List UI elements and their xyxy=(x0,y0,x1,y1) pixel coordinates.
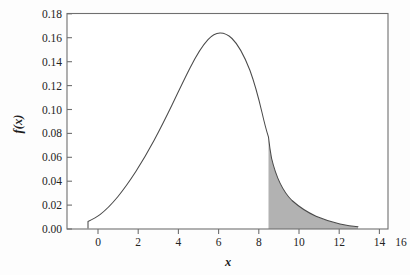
y-tick-label-0.18: 0.18 xyxy=(42,8,62,20)
y-tick-label-0.02: 0.02 xyxy=(42,199,62,211)
y-tick-label-0.06: 0.06 xyxy=(42,151,62,163)
plot-background xyxy=(67,14,388,230)
y-tick-label-0.04: 0.04 xyxy=(42,175,62,187)
x-tick-label-14: 14 xyxy=(374,236,386,248)
y-tick-label-0.14: 0.14 xyxy=(42,56,62,68)
x-tick-label-4: 4 xyxy=(176,236,182,248)
y-tick-label-0.12: 0.12 xyxy=(42,80,62,92)
x-tick-label-12: 12 xyxy=(333,236,345,248)
density-plot-svg: 0.18 0.16 0.14 0.12 0.10 0.08 0.06 0.04 … xyxy=(0,0,410,275)
y-tick-label-0.16: 0.16 xyxy=(42,32,62,44)
y-tick-label-0.10: 0.10 xyxy=(42,104,62,116)
x-tick-label-0: 0 xyxy=(95,236,101,248)
y-tick-label-0.08: 0.08 xyxy=(42,127,62,139)
x-tick-label-16: 16 xyxy=(395,236,407,248)
x-axis-title: x xyxy=(224,255,231,269)
x-tick-label-8: 8 xyxy=(256,236,262,248)
x-tick-label-10: 10 xyxy=(293,236,305,248)
x-tick-marks xyxy=(98,229,379,234)
y-tick-label-0.00: 0.00 xyxy=(42,223,62,235)
x-tick-label-6: 6 xyxy=(216,236,222,248)
chart-figure: 0.18 0.16 0.14 0.12 0.10 0.08 0.06 0.04 … xyxy=(0,0,410,275)
x-tick-label-2: 2 xyxy=(135,236,141,248)
y-axis-title: f(x) xyxy=(11,115,25,134)
